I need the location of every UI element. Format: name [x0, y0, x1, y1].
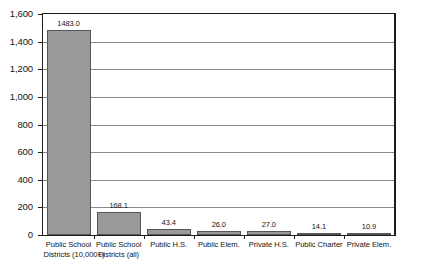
y-axis-tick-label: 0	[0, 229, 33, 240]
bar-slot: 10.9	[344, 14, 394, 235]
y-axis-tick-label: 600	[0, 146, 33, 157]
bar-slot: 26.0	[194, 14, 244, 235]
bar-value-label: 43.4	[162, 218, 176, 227]
y-axis-tick-label: 800	[0, 119, 33, 130]
y-axis-tick-label: 1,200	[0, 63, 33, 74]
x-axis-label-line: Private Elem.	[344, 240, 394, 250]
bar-slot: 168.1	[94, 14, 144, 235]
y-axis-tick	[38, 97, 43, 98]
chart-page: 1,6001,4001,2001,0008006004002000 1483.0…	[0, 0, 441, 272]
x-axis-label-line: Public Charter	[294, 240, 344, 250]
y-axis-tick	[38, 152, 43, 153]
bar-slot: 27.0	[244, 14, 294, 235]
x-axis-category-label: Public SchoolDistricts (all)	[94, 240, 144, 260]
bar[interactable]	[97, 212, 141, 235]
x-axis-category-label: Public H.S.	[144, 240, 194, 250]
bar-slot: 14.1	[294, 14, 344, 235]
x-axis-category-label: Private Elem.	[344, 240, 394, 250]
x-axis-label-line: Districts (all)	[94, 250, 144, 260]
x-axis-label-line: Districts (10,000+)	[44, 250, 94, 260]
x-axis-label-line: Public H.S.	[144, 240, 194, 250]
y-axis-tick	[38, 125, 43, 126]
y-axis-tick-label: 1,000	[0, 91, 33, 102]
x-axis-category-labels: Public SchoolDistricts (10,000+)Public S…	[44, 240, 395, 270]
x-axis-category-label: Public Elem.	[194, 240, 244, 250]
x-axis-label-line: Public School	[94, 240, 144, 250]
y-axis-tick	[38, 207, 43, 208]
x-axis-category-label: Public Charter	[294, 240, 344, 250]
bars-layer: 1483.0168.143.426.027.014.110.9	[44, 14, 395, 235]
y-axis-tick-label: 200	[0, 201, 33, 212]
y-axis-tick-label: 400	[0, 174, 33, 185]
x-axis-tick	[344, 235, 345, 239]
x-axis-tick	[194, 235, 195, 239]
bar-value-label: 1483.0	[57, 19, 79, 28]
bar-value-label: 10.9	[362, 222, 376, 231]
x-axis-label-line: Public School	[44, 240, 94, 250]
bar-slot: 43.4	[144, 14, 194, 235]
y-axis-tick-label: 1,400	[0, 36, 33, 47]
bar-value-label: 168.1	[109, 201, 127, 210]
y-axis-tick-label: 1,600	[0, 8, 33, 19]
bar-slot: 1483.0	[44, 14, 94, 235]
bar[interactable]	[47, 30, 91, 235]
x-axis-category-label: Public SchoolDistricts (10,000+)	[44, 240, 94, 260]
y-axis-tick	[38, 180, 43, 181]
x-axis-tick	[144, 235, 145, 239]
y-axis-tick	[38, 235, 43, 236]
y-axis-tick	[38, 14, 43, 15]
bar-value-label: 27.0	[262, 220, 276, 229]
x-axis-tick	[294, 235, 295, 239]
bar-value-label: 14.1	[312, 222, 326, 231]
y-axis-tick	[38, 69, 43, 70]
x-axis-label-line: Public Elem.	[194, 240, 244, 250]
bar-value-label: 26.0	[212, 220, 226, 229]
y-axis-tick	[38, 42, 43, 43]
x-axis-tick	[94, 235, 95, 239]
x-axis-label-line: Private H.S.	[244, 240, 294, 250]
x-axis-category-label: Private H.S.	[244, 240, 294, 250]
x-axis-tick	[244, 235, 245, 239]
